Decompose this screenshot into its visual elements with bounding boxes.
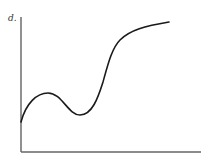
diagram-canvas <box>0 0 208 162</box>
data-curve <box>21 22 169 122</box>
line-diagram: d. <box>0 0 208 162</box>
y-axis-label: d. <box>8 13 17 23</box>
